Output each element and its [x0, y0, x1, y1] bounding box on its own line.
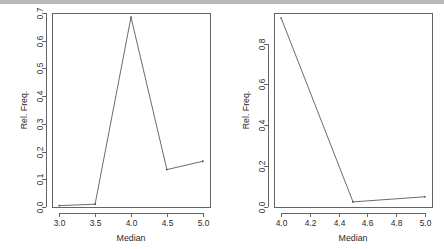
y-axis-tick-label: 0.0	[35, 201, 45, 213]
data-series-line	[59, 17, 203, 205]
data-point	[94, 203, 96, 205]
y-axis-tick-label: 0.4	[35, 90, 45, 102]
x-axis-tick-label: 4.5	[162, 218, 174, 228]
x-axis-tick-label: 5.0	[420, 218, 432, 228]
y-axis-tick-label: 0.4	[257, 119, 267, 131]
x-axis-tick-label: 4.2	[305, 218, 317, 228]
x-axis-tick-label: 3.0	[54, 218, 66, 228]
data-point	[280, 17, 282, 19]
x-axis-tick-label: 4.4	[334, 218, 346, 228]
y-axis-tick-label: 0.6	[257, 78, 267, 90]
data-series-line	[281, 18, 425, 202]
data-point	[58, 205, 60, 207]
y-axis-tick-label: 0.6	[35, 35, 45, 47]
screenshot-root: 3.03.54.04.55.0Median0.00.10.20.30.40.50…	[0, 0, 444, 249]
x-axis-title: Median	[117, 233, 146, 243]
line-chart-left: 3.03.54.04.55.0Median0.00.10.20.30.40.50…	[0, 0, 222, 249]
data-point	[202, 160, 204, 162]
y-axis-tick-label: 0.2	[35, 146, 45, 158]
x-axis-title: Median	[339, 233, 368, 243]
data-point	[424, 196, 426, 198]
x-axis-tick-label: 5.0	[198, 218, 210, 228]
y-axis-tick-label: 0.7	[35, 7, 45, 19]
x-axis-tick-label: 3.5	[90, 218, 102, 228]
y-axis-tick-label: 0.0	[257, 201, 267, 213]
x-axis-tick-label: 4.0	[276, 218, 288, 228]
y-axis-title: Rel. Freq.	[19, 91, 29, 130]
chart-panel-right: 4.04.24.44.64.85.0Median0.00.20.40.60.8R…	[222, 0, 444, 249]
chart-panel-left: 3.03.54.04.55.0Median0.00.10.20.30.40.50…	[0, 0, 222, 249]
data-point	[166, 169, 168, 171]
plot-frame	[275, 14, 433, 208]
x-axis-tick-label: 4.0	[126, 218, 138, 228]
x-axis-tick-label: 4.8	[391, 218, 403, 228]
data-point	[130, 16, 132, 18]
y-axis-tick-label: 0.5	[35, 62, 45, 74]
plot-frame	[53, 14, 211, 208]
data-point	[352, 201, 354, 203]
y-axis-tick-label: 0.1	[35, 173, 45, 185]
y-axis-tick-label: 0.3	[35, 118, 45, 130]
y-axis-tick-label: 0.8	[257, 38, 267, 50]
x-axis-tick-label: 4.6	[362, 218, 374, 228]
y-axis-title: Rel. Freq.	[241, 91, 251, 130]
line-chart-right: 4.04.24.44.64.85.0Median0.00.20.40.60.8R…	[222, 0, 444, 249]
y-axis-tick-label: 0.2	[257, 160, 267, 172]
